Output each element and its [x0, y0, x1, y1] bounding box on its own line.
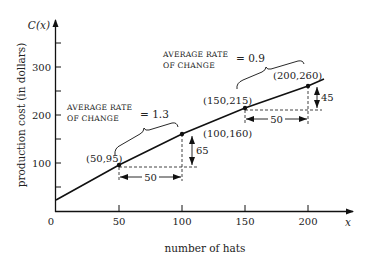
x-axis-symbol: x [345, 216, 351, 228]
y-axis-symbol: C(x) [28, 19, 50, 31]
rise-label: 65 [196, 145, 209, 156]
rate-value: = 0.9 [236, 52, 265, 64]
y-tick-label: 100 [32, 158, 51, 169]
rise-label: 45 [321, 92, 334, 103]
rate-annotation-2: 50 45 AVERAGE RATE OF CHANGE = 0.9 [162, 50, 334, 125]
cost-chart: 100 200 300 0 50 100 150 200 x C(x) numb… [0, 0, 371, 258]
point-label: (100,160) [203, 128, 252, 139]
y-tick-label: 200 [32, 110, 51, 121]
point-label: (200,260) [273, 70, 322, 81]
x-tick-label: 200 [298, 216, 317, 227]
x-tick-label: 100 [172, 216, 191, 227]
run-label: 50 [270, 114, 283, 125]
x-tick-label: 150 [235, 216, 254, 227]
rate-annotation-1: 50 65 AVERAGE RATE OF CHANGE = 1.3 [66, 103, 209, 183]
annotation-line1: AVERAGE RATE [162, 50, 228, 59]
x-ticks [119, 205, 308, 212]
annotation-line2: OF CHANGE [163, 61, 215, 70]
annotation-line1: AVERAGE RATE [66, 103, 132, 112]
annotation-line2: OF CHANGE [67, 114, 119, 123]
y-tick-labels: 100 200 300 [32, 62, 51, 169]
x-tick-label: 50 [113, 216, 126, 227]
cost-line [56, 79, 324, 200]
point-label: (150,215) [203, 95, 252, 106]
data-point [243, 106, 247, 110]
y-ticks [56, 43, 62, 187]
y-tick-label: 300 [32, 62, 51, 73]
rate-value: = 1.3 [140, 108, 169, 120]
point-label: (50,95) [86, 153, 123, 164]
x-tick-label: 0 [48, 216, 54, 227]
x-axis-title: number of hats [165, 242, 246, 254]
run-label: 50 [144, 172, 157, 183]
y-axis-title: production cost (in dollars) [15, 43, 27, 188]
x-tick-labels: 0 50 100 150 200 [48, 216, 318, 227]
